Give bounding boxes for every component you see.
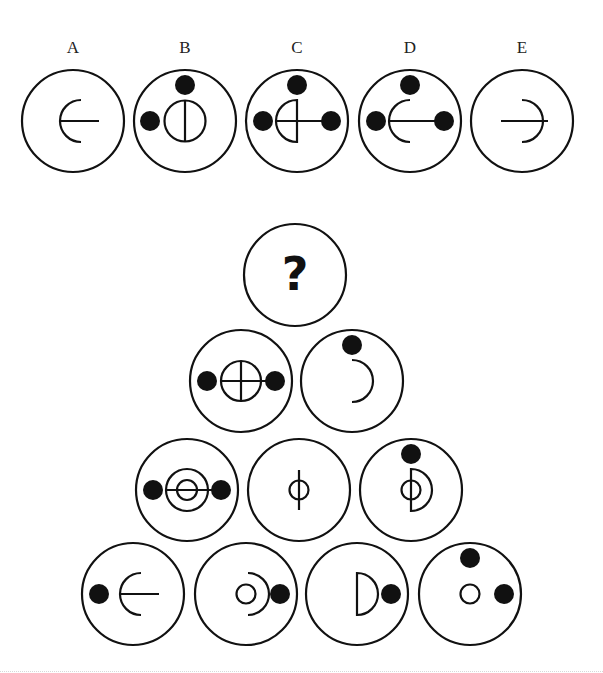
right-dot-icon <box>321 111 341 131</box>
pyramid-cell-r3-c3 <box>360 439 462 541</box>
pyramid-cell-r4-c4 <box>419 543 521 645</box>
pyramid-cell-r4-c2 <box>195 543 297 645</box>
pyramid-cell-r2-c1 <box>190 330 292 432</box>
pyramid-cell-r2-c2 <box>301 330 403 432</box>
question-mark: ? <box>282 246 309 302</box>
pyramid-cell-r4-c3 <box>306 543 408 645</box>
right-arc-icon <box>352 360 373 402</box>
right-dot-icon <box>270 584 290 604</box>
top-dot-icon <box>400 75 420 95</box>
small-circle-icon <box>237 585 256 604</box>
left-dot-icon <box>140 111 160 131</box>
left-dot-icon <box>89 584 109 604</box>
top-dot-icon <box>460 548 480 568</box>
pyramid-cell-r4-c1 <box>82 543 184 645</box>
pyramid-cell-r3-c2 <box>248 439 350 541</box>
option-a[interactable] <box>22 70 124 172</box>
option-b[interactable] <box>134 70 236 172</box>
right-dot-icon <box>434 111 454 131</box>
option-c[interactable] <box>246 70 348 172</box>
right-half-disc-icon <box>357 573 378 615</box>
right-dot-icon <box>381 584 401 604</box>
option-d[interactable] <box>359 70 461 172</box>
top-dot-icon <box>175 75 195 95</box>
right-dot-icon <box>265 371 285 391</box>
right-dot-icon <box>494 584 514 604</box>
top-dot-icon <box>342 335 362 355</box>
left-dot-icon <box>197 371 217 391</box>
left-dot-icon <box>366 111 386 131</box>
right-arc-icon <box>248 573 269 615</box>
left-dot-icon <box>253 111 273 131</box>
top-dot-icon <box>287 75 307 95</box>
pyramid-cell-r3-c1 <box>136 439 238 541</box>
top-dot-icon <box>401 444 421 464</box>
right-dot-icon <box>211 480 231 500</box>
left-dot-icon <box>143 480 163 500</box>
bottom-divider <box>0 671 603 672</box>
puzzle-canvas <box>0 0 603 673</box>
option-e[interactable] <box>471 70 573 172</box>
small-circle-icon <box>461 585 480 604</box>
